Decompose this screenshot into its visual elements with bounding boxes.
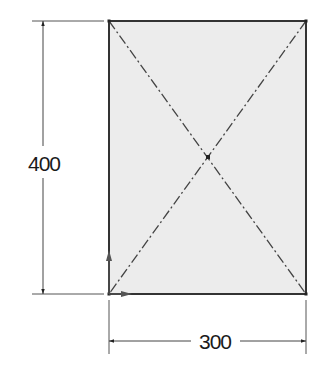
center-point[interactable]	[206, 155, 210, 159]
height-dimension[interactable]: 400	[28, 21, 104, 294]
corner-point-top-right[interactable]	[305, 20, 308, 23]
width-dimension[interactable]: 300	[109, 300, 306, 354]
corner-point-top-left[interactable]	[108, 20, 111, 23]
width-dimension-value[interactable]: 300	[199, 330, 231, 353]
corner-point-bottom-right[interactable]	[305, 293, 308, 296]
sketch-canvas: 400 300	[0, 0, 325, 377]
height-dimension-value[interactable]: 400	[28, 152, 60, 175]
